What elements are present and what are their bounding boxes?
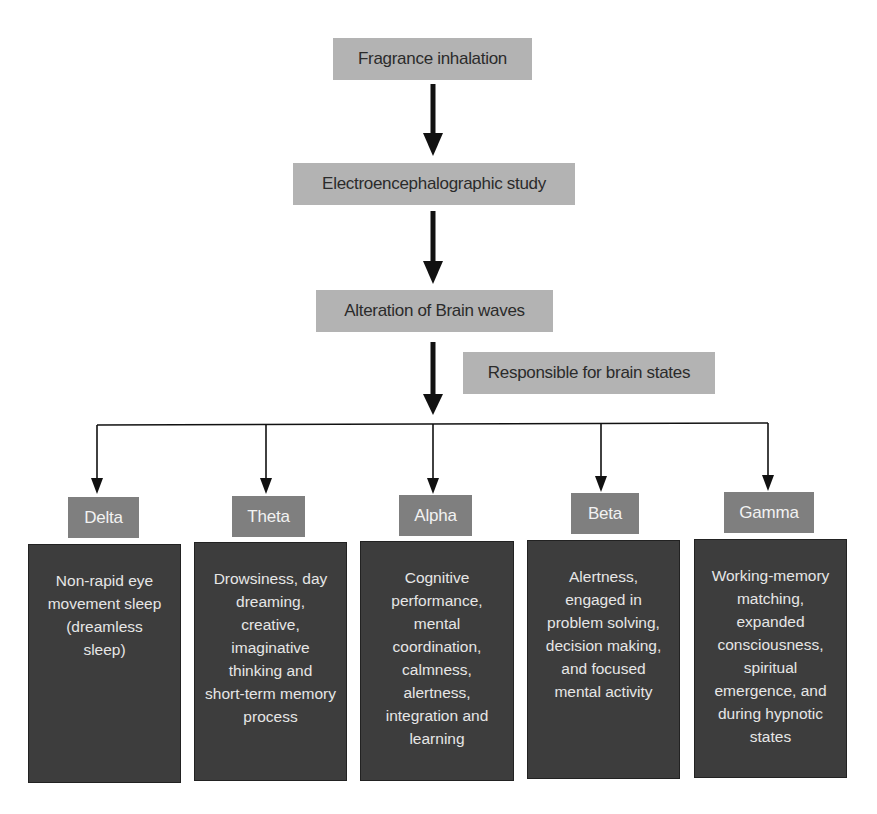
description-line: mental [371, 612, 503, 635]
wave-label-alpha: Alpha [399, 495, 472, 536]
description-line: states [705, 725, 836, 748]
description-line: sleep) [39, 638, 170, 661]
flow-box-alteration-brain-waves: Alteration of Brain waves [316, 290, 553, 332]
description-line: calmness, [371, 658, 503, 681]
description-line: problem solving, [538, 611, 669, 634]
description-line: short-term memory [205, 682, 336, 705]
description-line: mental activity [538, 680, 669, 703]
description-line: emergence, and [705, 679, 836, 702]
description-line: consciousness, [705, 633, 836, 656]
description-line: coordination, [371, 635, 503, 658]
description-line: decision making, [538, 634, 669, 657]
description-line: Working-memory [705, 564, 836, 587]
description-line: (dreamless [39, 615, 170, 638]
wave-label-delta: Delta [68, 497, 139, 538]
wave-description-beta: Alertness, engaged in problem solving, d… [527, 540, 680, 779]
description-line: during hypnotic [705, 702, 836, 725]
edge-annotation-brain-states: Responsible for brain states [463, 352, 715, 394]
wave-label-theta: Theta [232, 496, 305, 537]
description-line: imaginative [205, 636, 336, 659]
description-line: engaged in [538, 588, 669, 611]
wave-description-theta: Drowsiness, day dreaming, creative, imag… [194, 542, 347, 781]
description-line: process [205, 705, 336, 728]
description-line: dreaming, creative, [205, 590, 336, 636]
description-line: learning [371, 727, 503, 750]
description-line: thinking and [205, 659, 336, 682]
description-line: and focused [538, 657, 669, 680]
description-line: Non-rapid eye [39, 569, 170, 592]
description-line: Cognitive [371, 566, 503, 589]
description-line: Alertness, [538, 565, 669, 588]
description-line: performance, [371, 589, 503, 612]
flow-box-eeg-study: Electroencephalographic study [293, 163, 575, 205]
flow-box-fragrance-inhalation: Fragrance inhalation [333, 38, 532, 80]
wave-label-gamma: Gamma [724, 492, 814, 533]
description-line: spiritual [705, 656, 836, 679]
description-line: Drowsiness, day [205, 567, 336, 590]
wave-description-delta: Non-rapid eye movement sleep (dreamless … [28, 544, 181, 783]
description-line: alertness, [371, 681, 503, 704]
wave-description-alpha: Cognitive performance, mental coordinati… [360, 541, 514, 781]
description-line: integration and [371, 704, 503, 727]
description-line: expanded [705, 610, 836, 633]
description-line: movement sleep [39, 592, 170, 615]
description-line: matching, [705, 587, 836, 610]
wave-description-gamma: Working-memory matching, expanded consci… [694, 539, 847, 778]
wave-label-beta: Beta [571, 493, 639, 534]
